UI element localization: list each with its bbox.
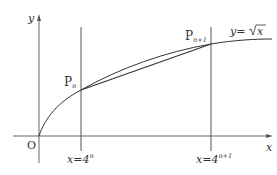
- function-label: y= x: [229, 25, 266, 38]
- point-pn-label: Pn: [64, 75, 76, 90]
- sqrt-graph-diagram: y x O Pn Pn+1 y= x x=4n x=4n+1: [0, 0, 277, 175]
- svg-text:x: x: [257, 25, 264, 38]
- chord-pn-pn1: [81, 44, 211, 90]
- x-axis-arrow-icon: [266, 134, 273, 138]
- vertical-line-label-4n1: x=4n+1: [196, 152, 232, 166]
- y-axis-label: y: [27, 12, 35, 25]
- x-axis: [13, 134, 273, 138]
- origin-label: O: [27, 139, 36, 152]
- y-axis: [37, 14, 41, 163]
- svg-text:y=: y=: [229, 25, 245, 38]
- point-pn1-label: Pn+1: [185, 29, 207, 44]
- x-axis-label: x: [266, 141, 273, 154]
- vertical-line-label-4n: x=4n: [67, 152, 94, 166]
- y-axis-arrow-icon: [37, 14, 41, 21]
